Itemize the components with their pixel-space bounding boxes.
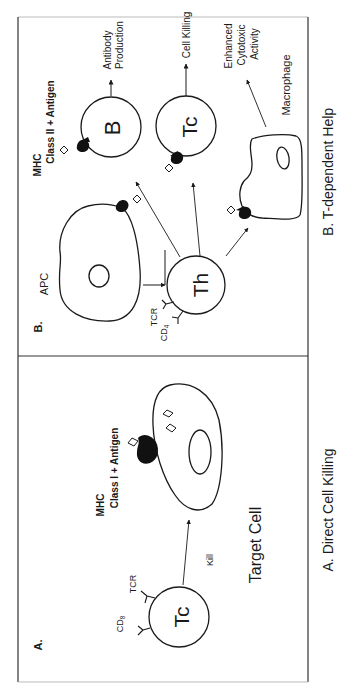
cytotoxic-label: Cytotoxic (237, 24, 247, 65)
arrow-kill (183, 520, 189, 585)
caption-a: A. Direct Cell Killing (321, 449, 335, 572)
macrophage-cell (240, 135, 302, 220)
th-tcr-label: TCR (150, 308, 159, 327)
mhc-i-label-line2: Class I + Antigen (110, 428, 120, 508)
production-label: Production (115, 21, 125, 69)
enhanced-label: Enhanced (224, 23, 234, 68)
th-label: Th (190, 273, 211, 298)
tc-mhc-antigen-icon (165, 151, 183, 172)
apc-cell (59, 204, 140, 321)
b-mhc-antigen-icon (60, 137, 90, 154)
panel-b-label: B. (33, 322, 44, 333)
mhc-ii-label-line2: Class II + Antigen (46, 80, 56, 163)
macrophage-label: Macrophage (281, 54, 292, 115)
apc-label: APC (39, 273, 50, 296)
target-cell (153, 384, 222, 510)
mhc-class-i-antigen-icon (128, 435, 158, 464)
tc-b-label: Tc (179, 117, 200, 138)
macrophage-nucleus (275, 146, 291, 170)
kill-label: Kill (206, 554, 215, 566)
b-cell-label: B (102, 121, 124, 136)
apc-nucleus (89, 265, 109, 287)
cell-killing-label: Cell Killing (182, 12, 192, 59)
target-cell-nucleus (189, 430, 211, 474)
mhc-ii-label-line1: MHC (33, 154, 43, 177)
macrophage-mhc-antigen-icon (227, 206, 251, 219)
internal-antigen-icon (163, 410, 173, 417)
apc-mhc-antigen-icon (116, 195, 141, 212)
arrow-th-to-tc (193, 183, 200, 256)
tc-a-tcr-label: TCR (129, 575, 138, 594)
th-cd4-label: CD4 (160, 325, 170, 342)
tc-a-label: Tc (171, 607, 192, 628)
arrow-macrophage-to-activity (247, 80, 266, 127)
arrow-th-to-b (136, 182, 180, 257)
arrow-th-to-macrophage (226, 228, 248, 256)
caption-b: B. T-dependent Help (321, 108, 335, 236)
internal-antigen-icon (166, 424, 176, 432)
tc-a-cd8-label: CD8 (116, 616, 126, 633)
mhc-i-label-line1: MHC (96, 494, 106, 517)
target-cell-label: Target Cell (248, 507, 264, 583)
activity-label: Activity (250, 28, 260, 60)
panel-a-label: A. (33, 640, 44, 651)
antibody-label: Antibody (103, 31, 113, 70)
